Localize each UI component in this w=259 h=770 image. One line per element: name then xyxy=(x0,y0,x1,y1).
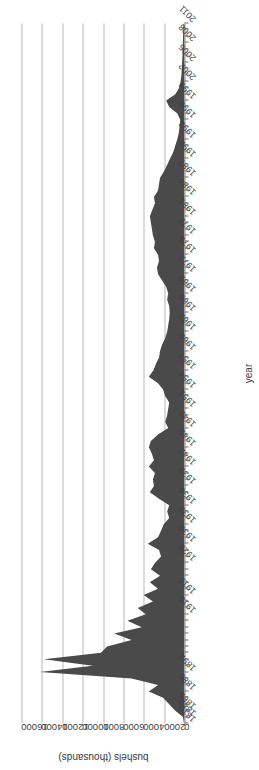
x-tick-label: 1999 xyxy=(178,81,199,102)
x-tick-label: 2008 xyxy=(178,23,199,44)
x-tick-label: 1926 xyxy=(178,543,199,564)
x-tick-label: 1880 xyxy=(178,671,199,692)
x-tick-label: 1993 xyxy=(178,119,199,140)
rotated-chart-container: bushels (thousands) 02000400060008000100… xyxy=(0,0,259,770)
x-tick-label: 1942 xyxy=(178,447,199,468)
x-tick-label: 1966 xyxy=(178,292,199,313)
x-tick-mark xyxy=(185,723,189,724)
area-chart-figure: bushels (thousands) 02000400060008000100… xyxy=(0,0,259,770)
x-tick-label: 1987 xyxy=(178,158,199,179)
x-tick-label: 1957 xyxy=(178,350,199,371)
x-tick-mark xyxy=(185,569,189,570)
x-tick-label: 1892 xyxy=(178,652,199,673)
x-tick-label: 1990 xyxy=(178,138,199,159)
x-tick-label: 1963 xyxy=(178,312,199,333)
x-tick-mark xyxy=(185,562,189,563)
x-tick-label: 1933 xyxy=(178,504,199,525)
x-tick-mark xyxy=(185,640,189,641)
x-tick-label: 1951 xyxy=(178,389,199,410)
x-tick-label: 1996 xyxy=(178,100,199,121)
x-tick-label: 2005 xyxy=(178,42,199,63)
x-tick-label: 1939 xyxy=(178,466,199,487)
x-tick-label: 1936 xyxy=(178,485,199,506)
x-axis-title: year xyxy=(243,364,254,383)
x-tick-label: 1916 xyxy=(178,575,199,596)
x-tick-label: 1948 xyxy=(178,408,199,429)
x-tick-label: 1978 xyxy=(178,215,199,236)
x-axis: 1810184018651880189219101916192619301933… xyxy=(0,0,259,770)
x-tick-mark xyxy=(185,614,189,615)
x-tick-label: 1981 xyxy=(178,196,199,217)
x-tick-label: 1954 xyxy=(178,370,199,391)
x-tick-mark xyxy=(185,620,189,621)
x-tick-label: 1930 xyxy=(178,524,199,545)
x-tick-mark xyxy=(185,646,189,647)
x-tick-label: 1972 xyxy=(178,254,199,275)
x-tick-label: 1945 xyxy=(178,427,199,448)
x-tick-label: 1984 xyxy=(178,177,199,198)
x-tick-mark xyxy=(185,627,189,628)
x-tick-label: 2011 xyxy=(178,4,198,24)
x-tick-mark xyxy=(185,633,189,634)
x-tick-label: 1910 xyxy=(178,594,199,615)
x-tick-label: 1960 xyxy=(178,331,199,352)
x-tick-label: 1969 xyxy=(178,273,199,294)
x-tick-label: 1975 xyxy=(178,235,199,256)
x-tick-label: 2002 xyxy=(178,61,199,82)
